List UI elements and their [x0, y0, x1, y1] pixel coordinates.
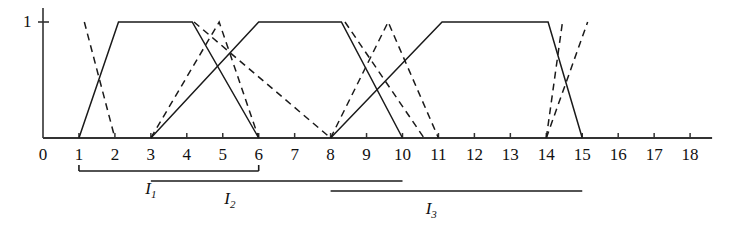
x-axis-label-11: 11 [430, 146, 446, 163]
fuzzy-membership-figure: 01234567891011121314151617181I1I2I3 [0, 0, 736, 225]
x-axis-label-15: 15 [574, 146, 591, 163]
interval-label-subscript: 2 [230, 198, 236, 210]
x-axis-label-0: 0 [39, 146, 48, 163]
x-axis-label-8: 8 [326, 146, 335, 163]
interval-label-I1: I1 [145, 180, 156, 200]
x-axis-label-16: 16 [610, 146, 627, 163]
interval-label-I3: I3 [426, 200, 437, 220]
x-axis-label-18: 18 [682, 146, 699, 163]
x-axis-label-7: 7 [290, 146, 299, 163]
interval-label-I2: I2 [224, 190, 235, 210]
interval-label-subscript: 1 [151, 188, 157, 200]
x-axis-label-5: 5 [219, 146, 228, 163]
x-axis-label-1: 1 [75, 146, 84, 163]
x-axis-label-9: 9 [362, 146, 371, 163]
curve-solid-membership-2 [151, 22, 403, 138]
x-axis-label-10: 10 [394, 146, 411, 163]
curve-dashed-membership-7 [546, 22, 562, 138]
x-axis-label-6: 6 [254, 146, 263, 163]
x-axis-label-13: 13 [502, 146, 519, 163]
y-axis-label-1: 1 [23, 13, 32, 30]
curve-solid-membership-1 [79, 22, 259, 138]
curve-dashed-membership-5 [345, 22, 424, 138]
x-axis-label-2: 2 [111, 146, 120, 163]
x-axis-label-12: 12 [466, 146, 483, 163]
curve-solid-membership-3 [331, 22, 583, 138]
membership-function-plot [0, 0, 736, 225]
x-axis-label-4: 4 [183, 146, 192, 163]
interval-label-subscript: 3 [431, 208, 437, 220]
x-axis-label-14: 14 [538, 146, 555, 163]
x-axis-label-17: 17 [646, 146, 663, 163]
x-axis-label-3: 3 [147, 146, 156, 163]
curve-dashed-membership-1 [84, 22, 115, 138]
curve-dashed-membership-3 [194, 22, 331, 138]
